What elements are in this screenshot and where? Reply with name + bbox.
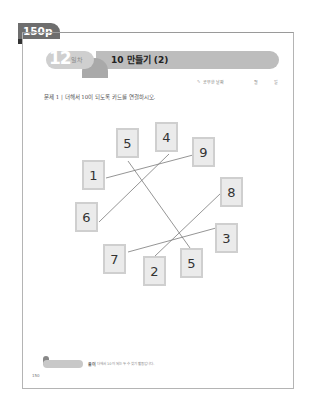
number-card[interactable]: 5 <box>180 248 203 278</box>
number-card[interactable]: 4 <box>155 122 178 152</box>
connection-line <box>155 193 221 256</box>
connection-line <box>128 161 190 248</box>
footer-hint-label: 풀이 <box>88 361 96 367</box>
footer-hint-text: 더해서 10이 되는 두 수 찾기 활동입니다. <box>97 361 154 366</box>
number-card[interactable]: 5 <box>116 128 139 158</box>
number-card[interactable]: 2 <box>143 256 166 286</box>
connection-lines <box>0 0 310 413</box>
number-card[interactable]: 7 <box>103 244 126 274</box>
number-card[interactable]: 8 <box>220 177 243 207</box>
number-card[interactable]: 6 <box>75 202 98 232</box>
number-card[interactable]: 1 <box>82 160 105 190</box>
number-card[interactable]: 3 <box>215 223 238 253</box>
page-number: 150 <box>32 373 40 378</box>
number-card[interactable]: 9 <box>192 137 215 167</box>
footer-logo <box>43 360 83 368</box>
connection-line <box>99 154 169 222</box>
connection-line <box>106 155 193 178</box>
